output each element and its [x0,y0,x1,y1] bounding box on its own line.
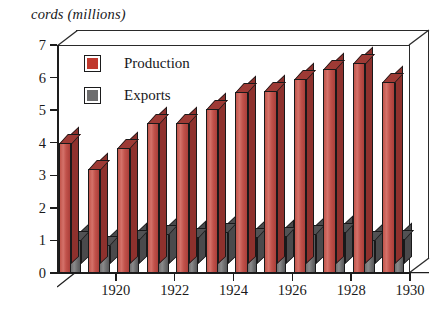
plot-frame-top-edge [57,45,410,46]
bar-front-face [176,123,189,273]
bar-side-face [395,66,403,264]
bar-front-face [323,69,336,273]
x-axis-tick [174,273,175,281]
y-axis-tick [50,77,57,79]
y-axis-tick-label: 3 [30,168,46,183]
x-axis-tick [115,273,116,281]
bar-side-face [404,222,412,264]
x-axis-tick-label: 1930 [396,283,425,298]
bar-production [294,79,307,273]
bar-side-face [277,74,285,264]
x-axis-tick [233,273,234,281]
gray-swatch-icon [84,87,101,104]
y-axis-tick [50,142,57,144]
y-axis-tick [50,44,57,46]
bar-side-face [218,92,226,264]
legend-label-exports: Exports [124,84,171,106]
bar-production [147,123,160,273]
bar-side-face [159,107,167,264]
y-axis-tick [50,175,57,177]
y-axis-tick-label: 2 [30,201,46,216]
x-axis-tick [350,273,351,281]
y-axis-tick [50,109,57,111]
bar-side-face [189,107,197,264]
x-axis-tick-label: 1928 [337,283,366,298]
bar-front-face [264,91,277,273]
plot-frame-back-top-edge [76,30,429,31]
bar-production [323,69,336,273]
bar-front-face [117,148,130,273]
y-axis-tick-label: 7 [30,38,46,53]
bar-side-face [248,76,256,264]
y-axis-tick-label: 1 [30,233,46,248]
y-axis-tick [50,240,57,242]
bar-production [382,82,395,273]
bar-production [264,91,277,273]
y-axis-tick [50,207,57,209]
bar-production [88,169,101,273]
plot-area: 01234567 192019221924192619281930 Produc… [0,0,442,315]
bar-side-face [130,131,138,264]
bar-production [353,63,366,273]
bar-chart: cords (millions) 01234567 19201922192419… [0,0,442,315]
bar-front-face [147,123,160,273]
bar-front-face [294,79,307,273]
legend-label-production: Production [124,52,190,74]
bar-side-face [71,126,79,264]
bar-production [206,109,219,273]
plot-frame-back-right-edge [428,30,429,258]
bar-front-face [206,109,219,273]
bar-side-face [306,63,314,264]
red-swatch-icon [84,55,101,72]
x-axis-tick-label: 1922 [160,283,189,298]
bar-production [117,148,130,273]
y-axis-tick-label: 0 [30,266,46,281]
bar-front-face [59,143,72,273]
x-axis-tick-label: 1920 [101,283,130,298]
bar-production [59,143,72,273]
bar-side-face [100,152,108,264]
bar-front-face [382,82,395,273]
x-axis-tick-label: 1926 [278,283,307,298]
bar-front-face [235,92,248,273]
y-axis-tick-label: 4 [30,136,46,151]
bar-front-face [88,169,101,273]
y-axis-tick-label: 5 [30,103,46,118]
bar-front-face [353,63,366,273]
x-axis-tick-label: 1924 [219,283,248,298]
bar-production [235,92,248,273]
bar-side-face [365,46,373,264]
bar-production [176,123,189,273]
plot-frame-depth-line-topleft [57,30,81,46]
x-axis-tick [292,273,293,281]
bar-side-face [336,53,344,264]
x-axis-tick [409,273,410,281]
y-axis-tick-label: 6 [30,71,46,86]
y-axis-tick [50,272,57,274]
